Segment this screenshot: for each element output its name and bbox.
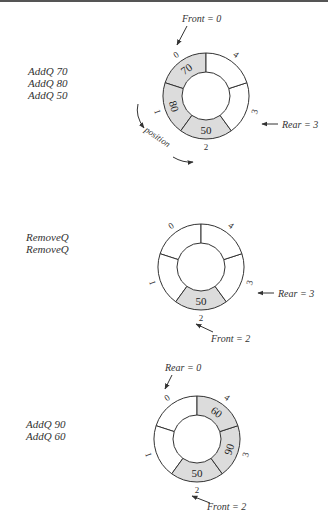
position-arrow-icon	[137, 104, 144, 128]
slot-value: 50	[192, 467, 204, 479]
queue-slot-0	[156, 396, 197, 432]
slot-index-label: 4	[226, 220, 236, 231]
queue-ring-1: 70080150234	[152, 49, 260, 152]
queue-ring-2: 0150234	[147, 220, 255, 323]
front-label: Front = 2	[210, 333, 250, 344]
slot-index-label: 4	[231, 49, 241, 60]
slot-index-label: 0	[162, 392, 172, 403]
rear-label: Rear = 3	[281, 119, 318, 130]
position-arrow-icon	[173, 157, 193, 162]
slot-index-label: 1	[143, 451, 154, 458]
rear-label: Rear = 3	[277, 288, 314, 299]
slot-index-label: 1	[152, 108, 163, 115]
slot-index-label: 3	[249, 108, 260, 116]
slot-value: 50	[201, 124, 213, 136]
front-pointer-1: Front = 0	[177, 13, 221, 45]
slot-index-label: 0	[166, 220, 176, 231]
slot-index-label: 4	[222, 392, 232, 403]
slot-index-label: 3	[240, 451, 251, 459]
slot-index-label: 2	[204, 142, 209, 152]
slot-index-label: 3	[244, 279, 255, 287]
rear-arrow-icon	[165, 375, 172, 389]
front-label: Front = 0	[181, 13, 221, 24]
queue-slot-4	[201, 224, 242, 260]
front-arrow-icon	[196, 324, 213, 332]
slot-value: 50	[196, 295, 208, 307]
front-pointer-2: Front = 2	[196, 324, 250, 344]
queue-slot-4	[206, 53, 247, 89]
rear-pointer-2: Rear = 3	[258, 288, 314, 299]
slot-index-label: 2	[199, 313, 204, 323]
slot-index-label: 2	[195, 485, 200, 495]
queue-ring-3: 01502903604	[143, 392, 251, 495]
circular-queue-diagram: 70080150234 0150234 01502903604 Front = …	[0, 0, 328, 529]
rear-label: Rear = 0	[164, 362, 201, 373]
rear-pointer-3: Rear = 0	[164, 362, 201, 389]
front-pointer-3: Front = 2	[192, 496, 246, 512]
slot-index-label: 0	[171, 49, 181, 60]
front-arrow-icon	[177, 26, 187, 45]
front-label: Front = 2	[206, 501, 246, 512]
queue-slot-0	[160, 224, 201, 260]
slot-index-label: 1	[147, 279, 158, 286]
rear-pointer-1: Rear = 3	[262, 119, 318, 130]
position-label: position	[142, 124, 173, 150]
